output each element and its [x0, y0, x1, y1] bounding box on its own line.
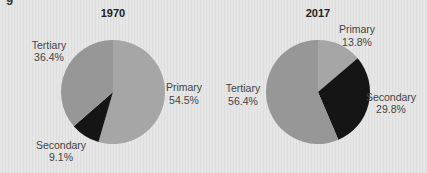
- label-secondary-2017: Secondary: [366, 91, 417, 103]
- label-tertiary-2017: Tertiary: [226, 82, 261, 94]
- value-primary-2017: 13.8%: [342, 36, 372, 48]
- pie-chart-1970: [61, 40, 165, 144]
- chart-title-2017: 2017: [306, 7, 330, 19]
- value-secondary-2017: 29.8%: [376, 103, 406, 115]
- label-primary-2017: Primary: [339, 23, 376, 35]
- value-tertiary-1970: 36.4%: [34, 51, 64, 63]
- pie-chart-2017: [266, 40, 370, 144]
- value-tertiary-2017: 56.4%: [228, 95, 258, 107]
- pie-charts: 1970 2017 Tertiary 36.4% Primary 54.5% S…: [0, 0, 427, 173]
- value-primary-1970: 54.5%: [169, 94, 199, 106]
- chart-title-1970: 1970: [101, 7, 125, 19]
- label-primary-1970: Primary: [166, 81, 203, 93]
- label-secondary-1970: Secondary: [36, 139, 87, 151]
- label-tertiary-1970: Tertiary: [32, 39, 67, 51]
- value-secondary-1970: 9.1%: [49, 151, 73, 163]
